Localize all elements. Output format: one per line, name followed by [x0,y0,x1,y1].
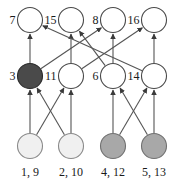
node-label-n5: 5, 13 [129,166,177,178]
node-circle-n14[interactable] [142,64,167,89]
node-circle-n4[interactable] [101,134,126,159]
node-circle-n2[interactable] [59,134,84,159]
node-label-n11: 11 [25,70,59,82]
node-label-n3: 3 [0,70,18,82]
node-label-n6: 6 [67,70,101,82]
node-label-n15: 15 [25,14,59,26]
node-circle-n1[interactable] [18,134,43,159]
node-label-n16: 16 [108,14,142,26]
node-circle-n5[interactable] [142,134,167,159]
node-layer [18,8,167,159]
node-circle-n16[interactable] [142,8,167,33]
node-label-n8: 8 [67,14,101,26]
edge-n14-to-n7 [43,26,142,71]
node-label-n7: 7 [0,14,18,26]
diagram-canvas: 7158163116141, 92, 104, 125, 13 [0,0,177,182]
node-label-n14: 14 [108,70,142,82]
edge-n11-to-n16 [82,28,143,69]
graph-svg [0,0,177,182]
